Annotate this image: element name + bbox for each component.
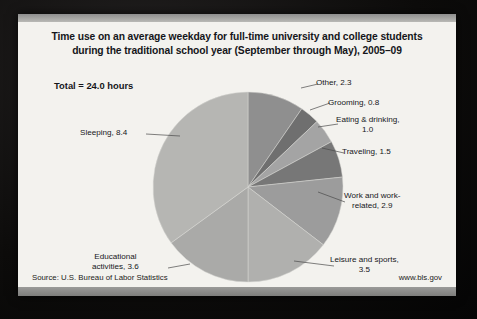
website-url: www.bls.gov: [399, 273, 442, 282]
slide-bottom-band: [18, 287, 456, 296]
slide-top-band: [18, 14, 456, 22]
pie-label-work: Work and work- related, 2.9: [344, 191, 401, 211]
leader-lines: [146, 84, 345, 268]
pie-slice: [248, 142, 342, 187]
pie-label-educational: Educational activities, 3.6: [92, 252, 139, 272]
source-note: Source: U.S. Bureau of Labor Statistics: [32, 273, 168, 282]
pie-slice: [248, 187, 323, 282]
pie-slice: [153, 92, 248, 243]
pie-label-sleeping: Sleeping, 8.4: [80, 128, 127, 138]
pie-slice: [248, 109, 317, 187]
presentation-slide: Time use on an average weekday for full-…: [18, 14, 456, 296]
pie-slices: [153, 92, 343, 282]
pie-slice: [248, 92, 302, 187]
pie-label-traveling: Traveling, 1.5: [342, 147, 391, 157]
total-note: Total = 24.0 hours: [54, 80, 133, 91]
title-line-1: Time use on an average weekday for full-…: [32, 30, 442, 44]
pie-label-leisure-sports: Leisure and sports, 3.5: [330, 255, 399, 275]
pie-slice: [248, 122, 331, 187]
pie-label-other: Other, 2.3: [316, 78, 352, 88]
pie-label-eating-drinking: Eating & drinking, 1.0: [336, 115, 399, 135]
pie-slice: [171, 187, 248, 282]
title-line-2: during the traditional school year (Sept…: [32, 44, 442, 58]
photo-background: Time use on an average weekday for full-…: [0, 0, 477, 319]
pie-slice: [248, 177, 343, 245]
pie-label-grooming: Grooming, 0.8: [328, 98, 379, 108]
page-title: Time use on an average weekday for full-…: [32, 30, 442, 57]
